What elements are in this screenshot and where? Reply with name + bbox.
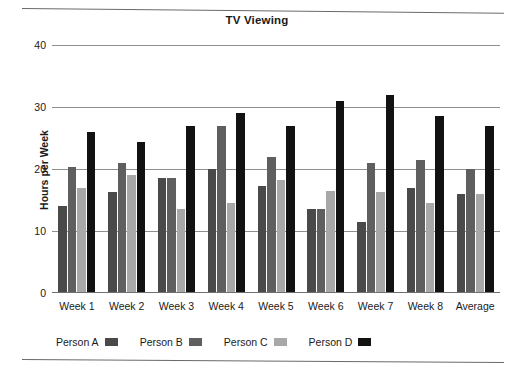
legend-item: Person B [140, 336, 202, 348]
legend-swatch [358, 338, 371, 346]
bar-group [400, 45, 450, 293]
bar [407, 188, 416, 293]
x-axis-tick-label: Average [450, 300, 500, 312]
bar-group [301, 45, 351, 293]
bar [267, 157, 276, 293]
bar [277, 180, 286, 293]
legend-item: Person D [309, 336, 372, 348]
bar [376, 192, 385, 293]
x-axis-tick-label: Week 8 [400, 300, 450, 312]
legend-swatch [274, 338, 287, 346]
bar [167, 178, 176, 293]
bar [317, 209, 326, 293]
bar [307, 209, 316, 293]
bar-group [251, 45, 301, 293]
bar [118, 163, 127, 293]
legend-swatch [189, 338, 202, 346]
bar [217, 126, 226, 293]
page-rule-bottom [22, 359, 504, 363]
bar [87, 132, 96, 293]
bar [258, 186, 267, 293]
bar [367, 163, 376, 293]
bar [137, 142, 146, 293]
bar-group [52, 45, 102, 293]
bar [336, 101, 345, 293]
bar [476, 194, 485, 293]
legend-label: Person B [140, 336, 183, 348]
bar-group [351, 45, 401, 293]
legend-swatch [105, 338, 118, 346]
plot-area: 010203040 [52, 45, 500, 293]
chart-title: TV Viewing [0, 14, 514, 26]
bar [457, 194, 466, 293]
bar [426, 203, 435, 293]
legend-item: Person A [56, 336, 118, 348]
y-axis-tick-label: 30 [22, 101, 46, 113]
bar-groups [52, 45, 500, 293]
bar-group [102, 45, 152, 293]
bar [177, 209, 186, 293]
bar-group [152, 45, 202, 293]
x-axis-labels: Week 1Week 2Week 3Week 4Week 5Week 6Week… [52, 300, 500, 312]
chart-legend: Person APerson BPerson CPerson D [56, 336, 371, 348]
bar [208, 169, 217, 293]
bar-group [201, 45, 251, 293]
y-axis-tick-label: 0 [22, 287, 46, 299]
page-rule-top [22, 8, 504, 14]
bar [386, 95, 395, 293]
bar [77, 188, 86, 293]
legend-item: Person C [224, 336, 287, 348]
x-axis-tick-label: Week 4 [201, 300, 251, 312]
y-axis-tick-label: 40 [22, 39, 46, 51]
y-axis-tick-label: 20 [22, 163, 46, 175]
x-axis-tick-label: Week 2 [102, 300, 152, 312]
bar [186, 126, 195, 293]
bar [108, 192, 117, 293]
legend-label: Person C [224, 336, 268, 348]
bar [357, 222, 366, 293]
x-axis-tick-label: Week 7 [351, 300, 401, 312]
bar [466, 169, 475, 293]
legend-label: Person D [309, 336, 353, 348]
bar [326, 191, 335, 293]
bar [416, 160, 425, 293]
bar [435, 116, 444, 293]
x-axis-tick-label: Week 1 [52, 300, 102, 312]
bar [286, 126, 295, 293]
y-axis-tick-label: 10 [22, 225, 46, 237]
x-axis-line [52, 292, 500, 293]
bar [236, 113, 245, 293]
bar [68, 167, 77, 293]
bar [58, 206, 67, 293]
bar-group [450, 45, 500, 293]
bar [127, 175, 136, 293]
legend-label: Person A [56, 336, 99, 348]
bar [158, 178, 167, 293]
bar [485, 126, 494, 293]
x-axis-tick-label: Week 5 [251, 300, 301, 312]
bar [227, 203, 236, 293]
x-axis-tick-label: Week 6 [301, 300, 351, 312]
x-axis-tick-label: Week 3 [152, 300, 202, 312]
